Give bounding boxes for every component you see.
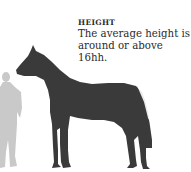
- caption-title: HEIGHT: [78, 18, 190, 28]
- human-silhouette: [0, 72, 22, 168]
- height-caption: HEIGHT The average height is around or a…: [78, 18, 190, 64]
- caption-text-line-2: around or above 16hh.: [78, 40, 190, 64]
- caption-text: The average height is around or above 16…: [78, 28, 190, 64]
- caption-text-line-1: The average height is: [78, 28, 190, 40]
